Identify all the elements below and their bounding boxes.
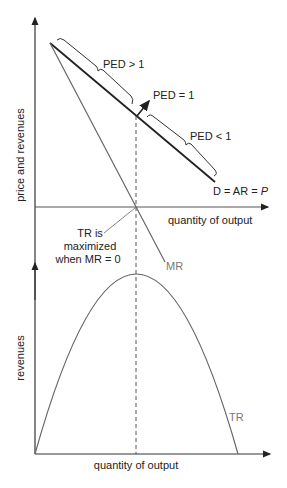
elastic-brace [57, 39, 133, 105]
top-graph: price and revenues quantity of output D … [14, 18, 269, 300]
mr-label: MR [166, 260, 183, 272]
ped-unit-label: PED = 1 [153, 89, 194, 101]
annotation-line1: TR is [77, 227, 103, 239]
ped-elastic-label: PED > 1 [103, 58, 144, 70]
annotation-line3: when MR = 0 [54, 253, 120, 265]
tr-label: TR [229, 411, 244, 423]
revenue-elasticity-diagram: price and revenues quantity of output D … [0, 0, 287, 488]
top-y-axis-label: price and revenues [14, 108, 26, 202]
bottom-x-axis-label: quantity of output [94, 459, 178, 471]
inelastic-brace [147, 115, 216, 176]
ped-unit-arrow [137, 101, 149, 116]
bottom-y-axis-label: revenues [14, 335, 26, 381]
demand-label: D = AR = P [213, 185, 269, 197]
top-x-axis-label: quantity of output [168, 214, 252, 226]
annotation-leader [104, 208, 135, 233]
ped-inelastic-label: PED < 1 [190, 130, 231, 142]
bottom-graph: revenues quantity of output TR [14, 263, 270, 471]
mr-curve [50, 43, 165, 262]
annotation-line2: maximized [64, 240, 117, 252]
